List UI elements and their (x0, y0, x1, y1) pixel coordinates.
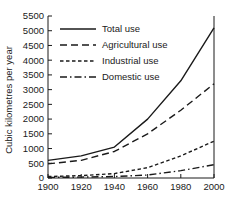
legend-label: Domestic use (102, 71, 160, 82)
legend-label: Total use (102, 23, 140, 34)
y-axis-tick-label: 4000 (23, 55, 44, 66)
legend-entry-agricultural-use: Agricultural use (60, 39, 167, 50)
x-axis-tick-label: 2000 (203, 181, 224, 192)
y-axis-tick-label: 5000 (23, 25, 44, 36)
y-axis-tick-label: 3500 (23, 69, 44, 80)
x-axis-tick-label: 1980 (170, 181, 191, 192)
x-axis-tick-label: 1960 (137, 181, 158, 192)
y-axis-tick-label: 2000 (23, 113, 44, 124)
y-axis-label-text: Cubic kilometres per year (3, 46, 14, 154)
legend-label: Agricultural use (102, 39, 167, 50)
x-axis-tick-label: 1900 (37, 181, 58, 192)
x-axis-tick-label: 1940 (104, 181, 125, 192)
y-axis-tick-label: 5500 (23, 10, 44, 21)
y-axis-tick-label: 500 (28, 158, 44, 169)
chart-canvas: Cubic kilometres per year 05001000150020… (0, 0, 232, 213)
water-use-line-chart: Cubic kilometres per year 05001000150020… (0, 0, 232, 213)
y-axis-label: Cubic kilometres per year (3, 46, 14, 154)
legend-label: Industrial use (102, 55, 159, 66)
chart-legend: Total useAgricultural useIndustrial useD… (60, 23, 167, 82)
legend-entry-total-use: Total use (60, 23, 140, 34)
series-line-industrial-use (48, 141, 214, 176)
y-axis-tick-label: 4500 (23, 40, 44, 51)
legend-entry-industrial-use: Industrial use (60, 55, 159, 66)
x-axis-tick-label: 1920 (71, 181, 92, 192)
y-axis-tick-label: 1500 (23, 128, 44, 139)
legend-entry-domestic-use: Domestic use (60, 71, 160, 82)
x-axis-tick-labels: 190019201940196019802000 (37, 181, 224, 192)
y-axis-tick-label: 1000 (23, 143, 44, 154)
y-axis-tick-labels: 0500100015002000250030003500400045005000… (23, 10, 44, 183)
y-axis-tick-label: 2500 (23, 99, 44, 110)
y-axis-tick-label: 3000 (23, 84, 44, 95)
